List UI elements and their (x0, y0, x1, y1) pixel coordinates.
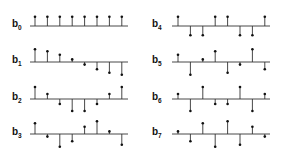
panel-label: b0 (12, 18, 22, 31)
stem-marker (239, 63, 242, 66)
stem-marker (108, 15, 111, 18)
stem-marker (83, 63, 86, 66)
stem-marker (34, 86, 37, 89)
stem-plot-b3: b3 (12, 120, 128, 148)
stem-marker (96, 120, 99, 123)
stem-marker (177, 53, 180, 56)
stem-marker (202, 122, 205, 125)
stem-marker (96, 68, 99, 71)
stem-marker (226, 120, 229, 123)
stem-marker (251, 48, 254, 51)
stem-marker (46, 50, 49, 53)
panel-label: b2 (12, 91, 22, 104)
panel-label: b5 (152, 54, 162, 67)
stem-plot-b4: b4 (152, 15, 270, 36)
stem-marker (108, 130, 111, 133)
stem-marker (96, 103, 99, 106)
stem-marker (226, 15, 229, 18)
panel-label: b4 (152, 18, 162, 31)
stem-marker (264, 68, 267, 71)
stem-marker (34, 15, 37, 18)
stem-plot-b0: b0 (12, 15, 128, 31)
panel-label: b1 (12, 54, 22, 67)
stem-marker (251, 110, 254, 113)
stem-marker (239, 34, 242, 37)
stem-marker (83, 15, 86, 18)
stem-plot-b2: b2 (12, 86, 128, 113)
stem-marker (46, 135, 49, 138)
stem-marker (226, 103, 229, 106)
stem-marker (264, 135, 267, 138)
stem-marker (46, 93, 49, 96)
stem-marker (59, 103, 62, 106)
dct-basis-figure: b0b1b2b3b4b5b6b7 (0, 0, 284, 158)
panel-label: b6 (152, 91, 162, 104)
stem-marker (59, 145, 62, 148)
stem-marker (83, 110, 86, 113)
stem-marker (46, 15, 49, 18)
stem-marker (214, 50, 217, 53)
stem-marker (59, 53, 62, 56)
stem-marker (239, 143, 242, 146)
stem-marker (71, 140, 74, 143)
panel-label: b3 (12, 126, 22, 139)
stem-marker (189, 73, 192, 76)
stem-marker (214, 103, 217, 106)
stem-marker (264, 15, 267, 18)
stem-marker (239, 86, 242, 89)
stem-marker (96, 15, 99, 18)
stem-marker (121, 86, 124, 89)
stem-marker (121, 143, 124, 146)
stem-marker (83, 125, 86, 128)
stem-marker (121, 15, 124, 18)
stem-marker (189, 110, 192, 113)
stem-plot-b7: b7 (152, 120, 270, 148)
stem-marker (202, 34, 205, 37)
stem-plot-b6: b6 (152, 86, 270, 113)
panel-label: b7 (152, 126, 162, 139)
stem-marker (177, 15, 180, 18)
stem-marker (34, 48, 37, 51)
stem-marker (71, 110, 74, 113)
stem-marker (202, 86, 205, 89)
stem-marker (189, 34, 192, 37)
stem-marker (177, 130, 180, 133)
stem-marker (251, 125, 254, 128)
stem-marker (34, 122, 37, 125)
stem-marker (214, 15, 217, 18)
stem-marker (251, 34, 254, 37)
stem-marker (71, 15, 74, 18)
stem-marker (108, 93, 111, 96)
stem-plot-b1: b1 (12, 48, 128, 76)
stem-marker (264, 93, 267, 96)
stem-marker (121, 73, 124, 76)
stem-marker (108, 71, 111, 74)
stem-marker (214, 145, 217, 148)
stem-marker (189, 140, 192, 143)
stem-plot-b5: b5 (152, 48, 270, 76)
stem-marker (226, 71, 229, 74)
stem-marker (177, 93, 180, 96)
stem-marker (202, 58, 205, 61)
stem-marker (71, 58, 74, 61)
stem-marker (59, 15, 62, 18)
